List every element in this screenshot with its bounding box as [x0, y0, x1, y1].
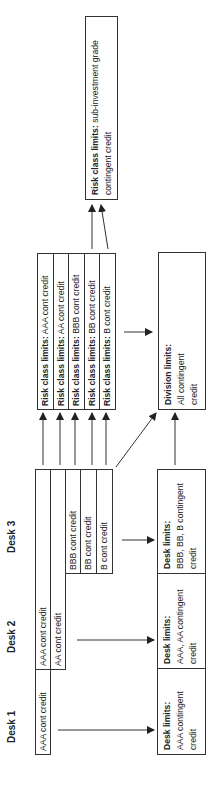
arrow-desk3-to-division	[116, 413, 156, 467]
arrow-b-risk-to-subinvestment	[101, 205, 108, 249]
arrow-connectors	[0, 0, 217, 789]
contingent-credit-limits-diagram: Desk 1 Desk 2 Desk 3 AAA cont credit AAA…	[0, 0, 217, 789]
